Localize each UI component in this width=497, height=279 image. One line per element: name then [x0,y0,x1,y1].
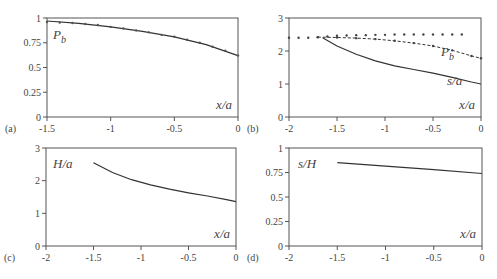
y-tick-label: 2 [278,46,283,57]
y-tick-label: 0 [36,112,41,123]
data-marker [224,49,226,51]
data-marker [451,33,453,35]
data-marker [384,34,386,36]
data-marker [148,31,150,33]
panel-label: (c) [4,252,15,264]
x-tick-label: -1 [381,123,389,134]
panel-d: -2-1.5-1-0.5000.250.50.751(d)x/a [247,143,485,265]
x-tick-label: 0 [480,252,485,263]
data-marker [403,33,405,35]
x-tick-label: 0 [236,123,241,134]
y-tick-label: 0.25 [24,87,42,98]
data-marker [237,54,239,56]
data-marker [122,27,124,29]
ha-label-c: H/a [52,156,73,171]
x-tick-label: -1 [381,252,389,263]
y-tick-label: 0 [278,241,283,252]
data-marker [393,40,395,42]
y-tick-label: 1 [278,79,283,90]
data-marker [336,36,338,38]
data-marker [135,29,137,31]
data-marker [355,37,357,39]
data-marker [432,33,434,35]
y-tick-label: 1 [278,143,283,154]
data-marker [374,34,376,36]
data-marker [365,34,367,36]
data-marker [211,46,213,48]
y-tick-label: 0.5 [271,192,284,203]
data-marker [432,45,434,47]
data-marker [160,34,162,36]
series-line [94,163,237,202]
y-tick-label: 0 [35,241,40,252]
y-tick-label: 3 [278,13,283,24]
x-tick-label: -0.5 [181,252,197,263]
y-tick-label: 0 [278,112,283,123]
data-marker [461,33,463,35]
data-marker [97,24,99,26]
figure: -1.5-1-0.5000.250.50.751(a)x/a-2-1.5-1-0… [0,0,497,279]
x-tick-label: -1 [106,123,114,134]
y-tick-label: 3 [35,143,40,154]
y-tick-label: 0.25 [266,216,284,227]
axes-frame [289,18,481,117]
data-marker [355,34,357,36]
data-marker [288,37,290,39]
data-marker [470,55,472,57]
axes-frame [46,148,236,246]
x-tick-label: -1 [137,252,145,263]
sa-label-b: s/a [447,73,463,88]
sh-label-d: s/H [298,156,317,171]
data-marker [413,42,415,44]
x-tick-label: -2 [42,252,50,263]
data-marker [345,34,347,36]
y-tick-label: 1 [35,208,40,219]
panel-a: -1.5-1-0.5000.250.50.751(a)x/a [5,13,241,136]
x-tick-label: 0 [234,252,239,263]
data-marker [317,36,319,38]
data-marker [307,37,309,39]
x-tick-label: -2 [285,123,293,134]
x-tick-label: -2 [285,252,293,263]
data-marker [186,39,188,41]
y-tick-label: 1 [36,13,41,24]
panel-label: (a) [5,123,16,135]
y-tick-label: 2 [35,175,40,186]
x-tick-label: -1.5 [329,252,345,263]
data-marker [71,22,73,24]
panel-label: (b) [247,123,259,135]
data-marker [393,33,395,35]
series-line [47,21,238,56]
data-marker [59,21,61,23]
data-marker [480,57,482,59]
axes-frame [47,18,238,117]
y-tick-label: 0.75 [266,167,284,178]
pb-label-a: Pb [52,27,66,45]
x-tick-label: -1.5 [39,123,55,134]
data-marker [84,23,86,25]
data-marker [374,38,376,40]
y-tick-label: 0.5 [29,62,42,73]
x-axis-label: x/a [458,97,475,112]
series-line [337,163,482,174]
pb-label-b: Pb [440,44,454,62]
panel-label: (d) [247,252,259,264]
data-marker [422,33,424,35]
y-tick-label: 0.75 [24,37,42,48]
data-marker [297,37,299,39]
axes-frame [289,148,482,246]
x-tick-label: -0.5 [166,123,182,134]
x-axis-label: x/a [215,97,232,112]
x-tick-label: -0.5 [426,252,442,263]
data-marker [109,26,111,28]
data-marker [413,33,415,35]
data-marker [199,42,201,44]
x-tick-label: -1.5 [86,252,102,263]
x-tick-label: -0.5 [425,123,441,134]
data-marker [173,36,175,38]
x-axis-label: x/a [213,226,230,241]
x-axis-label: x/a [459,226,476,241]
x-tick-label: -1.5 [329,123,345,134]
data-marker [46,21,48,23]
x-tick-label: 0 [479,123,484,134]
